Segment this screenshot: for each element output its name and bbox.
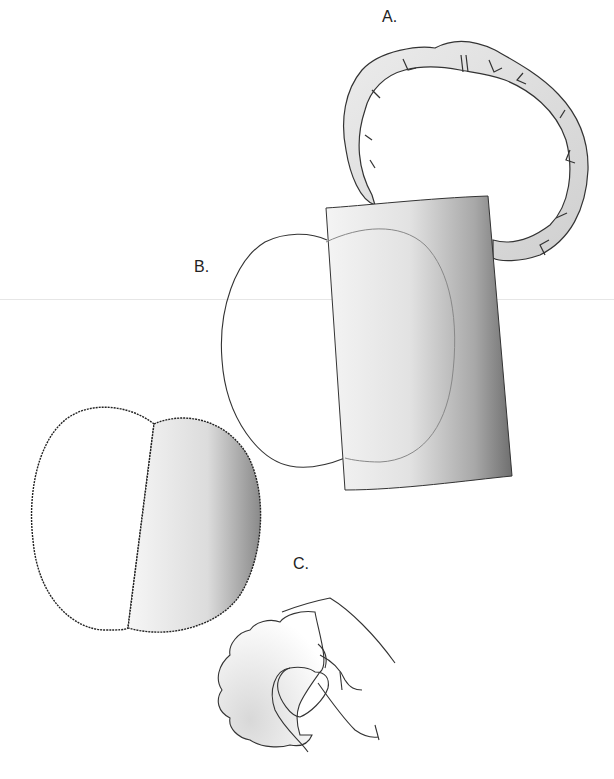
panel-c-hand: [218, 598, 395, 752]
split-serrated-oval: [32, 407, 261, 632]
panel-label-c: C.: [293, 555, 309, 573]
panel-label-b: B.: [194, 258, 209, 276]
panel-b-oval-and-sheet: [221, 196, 512, 490]
illustration-canvas: [0, 0, 614, 779]
panel-label-a: A.: [382, 8, 397, 26]
